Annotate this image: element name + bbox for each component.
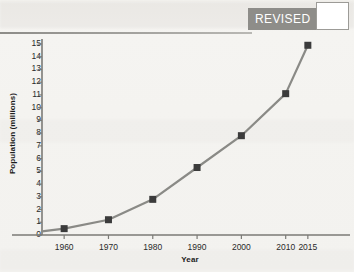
revised-answer-box[interactable]	[316, 2, 349, 30]
data-point-marker	[61, 225, 68, 232]
axes-group	[12, 39, 350, 239]
revised-label: REVISED	[248, 8, 316, 30]
data-point-marker	[304, 42, 311, 49]
plot-canvas	[0, 33, 354, 272]
population-line-chart: Population (millions) Year 0123456789101…	[0, 33, 354, 272]
data-point-marker	[105, 216, 112, 223]
data-point-marker	[238, 132, 245, 139]
data-point-marker	[194, 164, 201, 171]
data-series-group	[42, 42, 311, 232]
data-point-marker	[149, 196, 156, 203]
series-line	[64, 45, 308, 228]
data-point-marker	[282, 90, 289, 97]
revised-banner: REVISED	[248, 8, 349, 30]
